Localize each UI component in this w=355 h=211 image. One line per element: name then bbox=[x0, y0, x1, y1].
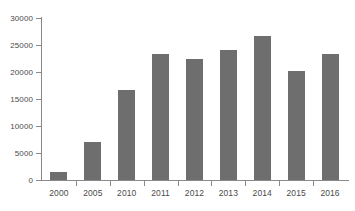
y-axis-tick-label: 20000 bbox=[10, 68, 33, 77]
x-axis-tick-label: 2015 bbox=[287, 188, 306, 198]
x-axis-line bbox=[41, 180, 349, 181]
bar-2010 bbox=[118, 90, 135, 180]
x-axis-tick-label: 2012 bbox=[185, 188, 204, 198]
x-axis-tick-label: 2005 bbox=[83, 188, 102, 198]
bar-2013 bbox=[220, 50, 237, 180]
y-axis-tick-label: 10000 bbox=[10, 122, 33, 131]
y-axis-tick bbox=[36, 180, 42, 181]
bar-2011 bbox=[152, 54, 169, 180]
bar-2015 bbox=[288, 71, 305, 180]
x-axis-tick-label: 2011 bbox=[151, 188, 170, 198]
bar-2012 bbox=[186, 59, 203, 181]
plot-area bbox=[42, 18, 347, 180]
x-axis-tick-label: 2014 bbox=[253, 188, 272, 198]
y-axis-tick-label: 25000 bbox=[10, 41, 33, 50]
x-axis-tick bbox=[313, 181, 314, 186]
x-axis-tick bbox=[211, 181, 212, 186]
x-axis-tick bbox=[76, 181, 77, 186]
x-axis-tick bbox=[279, 181, 280, 186]
x-axis-tick-label: 2000 bbox=[49, 188, 68, 198]
y-axis-tick-label: 5000 bbox=[15, 149, 33, 158]
x-axis-tick-label: 2016 bbox=[320, 188, 339, 198]
bar-2014 bbox=[254, 36, 271, 180]
bar-2000 bbox=[50, 172, 67, 180]
x-axis-tick bbox=[110, 181, 111, 186]
x-axis-tick bbox=[144, 181, 145, 186]
x-axis-tick-label: 2010 bbox=[117, 188, 136, 198]
y-axis-tick-label: 15000 bbox=[10, 95, 33, 104]
y-axis-tick-label: 0 bbox=[28, 176, 33, 185]
bar-2005 bbox=[84, 142, 101, 180]
x-axis-tick-label: 2013 bbox=[219, 188, 238, 198]
x-axis-tick bbox=[245, 181, 246, 186]
x-axis-tick bbox=[178, 181, 179, 186]
y-axis-tick-label: 30000 bbox=[10, 14, 33, 23]
bar-chart: 050001000015000200002500030000 200020052… bbox=[0, 0, 355, 211]
bar-2016 bbox=[322, 54, 339, 180]
